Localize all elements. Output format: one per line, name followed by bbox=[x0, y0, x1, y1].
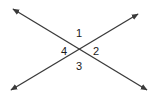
angle-label-3: 3 bbox=[76, 60, 82, 72]
intersecting-lines-diagram: 1 2 3 4 bbox=[0, 0, 158, 98]
angle-label-1: 1 bbox=[76, 27, 82, 39]
angle-label-2: 2 bbox=[93, 45, 99, 57]
angle-label-4: 4 bbox=[61, 45, 67, 57]
line-b bbox=[11, 14, 138, 90]
